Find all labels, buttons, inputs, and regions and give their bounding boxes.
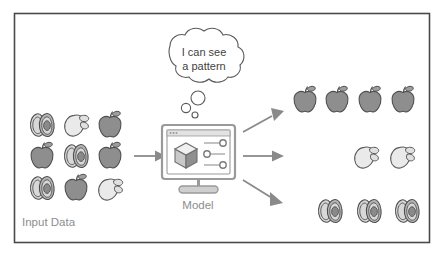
output-item-avocado <box>395 200 419 223</box>
input-item-avocado <box>30 114 54 137</box>
slider-knob[interactable] <box>220 162 226 168</box>
cube-icon <box>175 143 197 168</box>
diagram-canvas: I can see a pattern <box>0 0 443 257</box>
slider-knob[interactable] <box>220 140 226 146</box>
titlebar-dot <box>173 132 175 134</box>
input-item-avocado <box>30 177 54 200</box>
slider-knob[interactable] <box>204 151 210 157</box>
output-item-avocado <box>318 200 342 223</box>
bubble-line-1: I can see <box>182 46 227 58</box>
titlebar-dot <box>170 132 172 134</box>
bubble-circle-small <box>192 112 198 118</box>
bubble-circle-medium <box>181 103 190 112</box>
input-item-avocado <box>64 145 88 168</box>
monitor-base <box>179 186 218 193</box>
input-data-label: Input Data <box>22 216 76 228</box>
model-label: Model <box>182 199 213 211</box>
bubble-circle-large <box>191 91 205 105</box>
titlebar-dot <box>176 132 178 134</box>
output-row-avocado <box>318 200 419 223</box>
output-item-avocado <box>357 200 381 223</box>
bubble-line-2: a pattern <box>182 60 225 72</box>
